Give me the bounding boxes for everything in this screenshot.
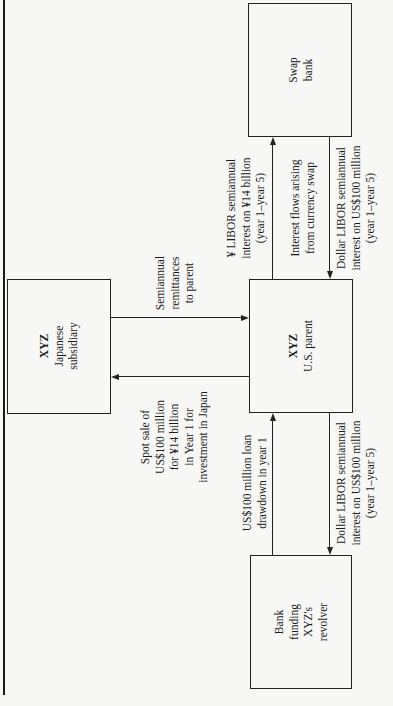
label-line: remittances	[168, 256, 183, 310]
dollar-libor-swap-connector	[329, 137, 330, 271]
dollar-libor-bank-label: Dollar LIBOR semiannual interest on US$1…	[334, 421, 378, 546]
label-line: drawdown in year 1	[254, 435, 269, 531]
remittances-connector	[111, 317, 242, 318]
arrow-up-icon	[270, 413, 276, 421]
spot-sale-connector	[118, 376, 249, 377]
dollar-libor-swap-label: Dollar LIBOR semiannual interest on US$1…	[334, 146, 378, 271]
yen-libor-connector	[272, 140, 273, 279]
label-line: to parent	[182, 256, 197, 310]
label-line: XYZ's	[301, 603, 316, 641]
label-line: XYZ	[37, 322, 52, 369]
label-line: Semiannual	[153, 256, 168, 310]
arrow-down-icon	[327, 271, 333, 279]
spot-sale-label: Spot sale of US$100 million for ¥14 bill…	[138, 391, 211, 482]
label-line: interest on ¥14 billion	[239, 157, 254, 258]
label-line: Bank	[272, 603, 287, 641]
label-line: investment in Japan	[196, 391, 211, 482]
label-line: (year 1–year 5)	[253, 157, 268, 258]
arrow-left-icon	[111, 374, 119, 380]
arrow-up-icon	[270, 137, 276, 145]
label-line: in Year 1 for	[181, 391, 196, 482]
label-line: U.S. parent	[300, 320, 315, 372]
left-rule-line	[3, 0, 5, 695]
label-line: for ¥14 billion	[167, 391, 182, 482]
label-line: ¥ LIBOR semiannual	[224, 157, 239, 258]
label-line: (year 1–year 5)	[363, 146, 378, 271]
label-line: interest on US$100 million	[349, 421, 364, 546]
label-line: Spot sale of	[138, 391, 153, 482]
swap-note-label: Interest flows arising from currency swa…	[288, 159, 317, 256]
dollar-libor-bank-connector	[329, 413, 330, 547]
loan-drawdown-connector	[272, 420, 273, 555]
label-line: Interest flows arising	[288, 159, 303, 256]
label-line: revolver	[316, 603, 331, 641]
label-line: (year 1–year 5)	[363, 421, 378, 546]
label-line: XYZ	[286, 320, 301, 372]
label-line: subsidiary	[66, 322, 81, 369]
label-line: from currency swap	[302, 159, 317, 256]
us-parent-label: XYZ U.S. parent	[286, 320, 315, 372]
swap-bank-label: Swap bank	[286, 57, 315, 83]
loan-drawdown-label: US$100 million loan drawdown in year 1	[240, 435, 269, 531]
arrow-down-icon	[327, 547, 333, 555]
label-line: Swap	[286, 57, 301, 83]
bank-funding-label: Bank funding XYZ's revolver	[272, 603, 330, 641]
label-line: US$100 million loan	[240, 435, 255, 531]
yen-libor-label: ¥ LIBOR semiannual interest on ¥14 billi…	[224, 157, 268, 258]
label-line: interest on US$100 million	[349, 146, 364, 271]
label-line: Japanese	[52, 322, 67, 369]
label-line: Dollar LIBOR semiannual	[334, 146, 349, 271]
label-line: funding	[287, 603, 302, 641]
label-line: US$100 million	[152, 391, 167, 482]
label-line: bank	[300, 57, 315, 83]
label-line: Dollar LIBOR semiannual	[334, 421, 349, 546]
arrow-right-icon	[241, 315, 249, 321]
japanese-subsidiary-label: XYZ Japanese subsidiary	[37, 322, 81, 369]
remittances-label: Semiannual remittances to parent	[153, 256, 197, 310]
